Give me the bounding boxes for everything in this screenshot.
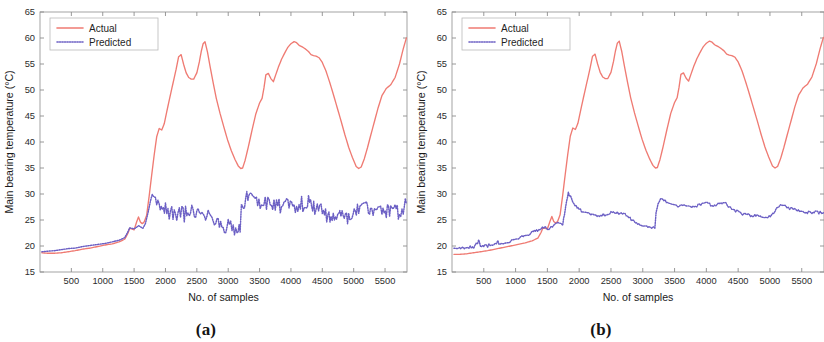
x-tick-label: 2000 [155,276,176,286]
chart-panel-b: 5001000150020002500300035004000450050005… [412,0,824,342]
x-tick-label: 5500 [791,276,812,286]
legend-label-actual: Actual [501,23,529,34]
series-line-actual [454,37,823,254]
y-tick-label: 40 [437,137,447,147]
y-tick-label: 50 [25,85,35,95]
legend-label-predicted: Predicted [501,37,543,48]
chart-svg-a: 5001000150020002500300035004000450050005… [0,0,412,312]
y-tick-label: 55 [25,59,35,69]
chart-legend: ActualPredicted [462,18,570,50]
x-tick-label: 2000 [569,276,590,286]
y-tick-label: 20 [437,241,447,251]
y-axis-title: Main bearing temperature (°C) [415,70,427,213]
x-tick-label: 500 [64,276,80,286]
y-tick-label: 30 [25,189,35,199]
panel-caption-b: (b) [412,320,824,340]
x-tick-label: 4500 [312,276,333,286]
y-tick-label: 15 [437,267,447,277]
series-line-actual [42,38,406,253]
y-tick-label: 60 [25,33,35,43]
x-axis-title: No. of samples [188,291,259,303]
x-tick-label: 500 [476,276,492,286]
chart-panel-a: 5001000150020002500300035004000450050005… [0,0,412,342]
x-tick-label: 5500 [375,276,396,286]
series-line-predicted [454,192,823,249]
y-tick-label: 35 [437,163,447,173]
y-tick-label: 55 [437,59,447,69]
y-tick-label: 65 [437,7,447,17]
x-tick-label: 3500 [249,276,270,286]
x-axis-title: No. of samples [603,291,674,303]
x-tick-label: 1500 [537,276,558,286]
panel-caption-a: (a) [0,320,412,340]
x-tick-label: 2500 [186,276,207,286]
y-tick-label: 65 [25,7,35,17]
x-tick-label: 5000 [760,276,781,286]
x-tick-label: 5000 [343,276,364,286]
x-tick-label: 3000 [218,276,239,286]
x-tick-label: 4000 [281,276,302,286]
y-tick-label: 50 [437,85,447,95]
y-tick-label: 60 [437,33,447,43]
y-tick-label: 20 [25,241,35,251]
y-tick-label: 15 [25,267,35,277]
y-tick-label: 40 [25,137,35,147]
x-tick-label: 1500 [124,276,145,286]
x-tick-label: 1000 [505,276,526,286]
chart-svg-b: 5001000150020002500300035004000450050005… [412,0,824,312]
y-tick-label: 30 [437,189,447,199]
series-line-predicted [42,192,406,252]
x-tick-label: 1000 [92,276,113,286]
y-axis-title: Main bearing temperature (°C) [3,70,15,213]
x-tick-label: 4500 [728,276,749,286]
y-tick-label: 35 [25,163,35,173]
x-tick-label: 2500 [601,276,622,286]
x-tick-label: 3500 [664,276,685,286]
legend-label-actual: Actual [89,23,117,34]
x-tick-label: 3000 [632,276,653,286]
y-tick-label: 25 [437,215,447,225]
x-tick-label: 4000 [696,276,717,286]
y-tick-label: 25 [25,215,35,225]
chart-legend: ActualPredicted [50,18,158,50]
y-tick-label: 45 [437,111,447,121]
y-tick-label: 45 [25,111,35,121]
figure-container: 5001000150020002500300035004000450050005… [0,0,824,342]
legend-label-predicted: Predicted [89,37,131,48]
